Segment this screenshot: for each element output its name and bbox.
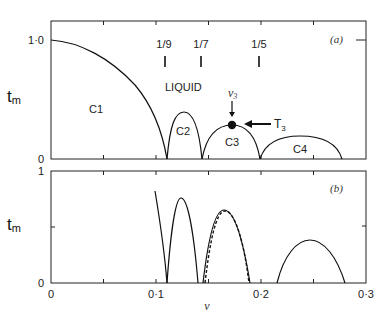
xtick-0-3: 0·3 [358, 288, 374, 300]
xtick-0: 0 [48, 288, 54, 300]
panel-b-top-ticks [104, 171, 314, 175]
panel-b-label: (b) [330, 182, 343, 195]
panel-b: 1 0 tm (b) [7, 165, 366, 289]
region-liquid: LIQUID [165, 81, 202, 93]
panel-a-ytick-top: 1·0 [28, 34, 44, 46]
x-axis-label: v [204, 299, 210, 313]
v3-label: v3 [228, 86, 237, 101]
panel-a-ylabel: tm [7, 87, 21, 106]
t3-label: T3 [274, 117, 286, 133]
triple-point-marker [228, 121, 236, 129]
curve-b-branch-1 [155, 191, 167, 283]
xtick-0-1: 0·1 [148, 288, 164, 300]
fraction-1-5: 1/5 [251, 38, 266, 50]
curve-c1 [51, 40, 167, 159]
t3-arrowhead-icon [244, 120, 252, 128]
panel-b-ytick-top: 1 [38, 165, 44, 177]
curve-b-arch-2 [167, 198, 198, 283]
panel-b-bottom-ticks [104, 279, 314, 283]
region-c3: C3 [225, 136, 239, 148]
panel-b-ytick-bottom: 0 [38, 277, 44, 289]
region-c1: C1 [89, 103, 103, 115]
panel-a-label: (a) [330, 33, 343, 46]
panel-a: 1·0 0 tm 1/9 1/7 1/5 LIQUID C1 C2 C3 C4 … [7, 21, 366, 165]
panel-a-top-ticks [104, 21, 314, 25]
panel-a-ytick-bottom: 0 [38, 153, 44, 165]
panel-b-frame [51, 171, 366, 283]
fraction-1-9: 1/9 [156, 38, 171, 50]
xtick-0-2: 0·2 [253, 288, 269, 300]
panel-a-bottom-ticks [104, 155, 314, 159]
phase-diagram-figure: 1·0 0 tm 1/9 1/7 1/5 LIQUID C1 C2 C3 C4 … [0, 0, 380, 320]
region-c4: C4 [293, 143, 307, 155]
region-c2: C2 [176, 125, 190, 137]
v3-arrowhead-icon [229, 112, 235, 117]
curve-b-arch-4 [277, 240, 345, 283]
panel-b-ylabel: tm [7, 215, 21, 234]
fraction-1-7: 1/7 [193, 38, 208, 50]
